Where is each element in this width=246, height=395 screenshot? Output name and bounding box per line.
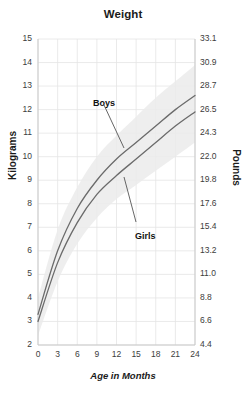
- x-axis-tick-label: 6: [68, 349, 86, 359]
- y-axis-left-tick-label: 6: [10, 245, 32, 255]
- y-axis-left-tick-label: 3: [10, 315, 32, 325]
- series-label-boys: Boys: [93, 98, 115, 108]
- x-axis-tick-label: 15: [127, 349, 145, 359]
- y-axis-left-tick-label: 5: [10, 268, 32, 278]
- y-axis-right-tick-label: 24.3: [200, 127, 226, 137]
- y-axis-right-tick-label: 26.5: [200, 104, 226, 114]
- y-axis-left-tick-label: 14: [10, 57, 32, 67]
- y-axis-left-tick-label: 4: [10, 292, 32, 302]
- y-axis-left-tick-label: 13: [10, 80, 32, 90]
- y-axis-right-tick-label: 33.1: [200, 33, 226, 43]
- x-axis-tick-label: 9: [88, 349, 106, 359]
- y-axis-right-tick-label: 11.0: [200, 268, 226, 278]
- y-axis-right-tick-label: 6.6: [200, 315, 226, 325]
- y-axis-left-tick-label: 7: [10, 221, 32, 231]
- series-label-girls: Girls: [135, 231, 156, 241]
- y-axis-right-tick-label: 30.9: [200, 57, 226, 67]
- y-axis-left-tick-label: 8: [10, 198, 32, 208]
- weight-growth-chart: Weight Kilograms Pounds Age in Months 15…: [0, 0, 246, 395]
- y-axis-left-tick-label: 12: [10, 104, 32, 114]
- y-axis-right-tick-label: 15.4: [200, 221, 226, 231]
- y-axis-right-tick-label: 8.8: [200, 292, 226, 302]
- y-axis-left-tick-label: 10: [10, 151, 32, 161]
- y-axis-right-tick-label: 17.6: [200, 198, 226, 208]
- y-axis-right-tick-label: 13.2: [200, 245, 226, 255]
- y-axis-right-tick-label: 28.7: [200, 80, 226, 90]
- x-axis-tick-label: 18: [147, 349, 165, 359]
- x-axis-tick-label: 3: [49, 349, 67, 359]
- x-axis-tick-label: 12: [108, 349, 126, 359]
- y-axis-left-tick-label: 9: [10, 174, 32, 184]
- x-axis-tick-label: 0: [29, 349, 47, 359]
- y-axis-left-tick-label: 15: [10, 33, 32, 43]
- y-axis-left-tick-label: 2: [10, 339, 32, 349]
- y-axis-right-tick-label: 19.8: [200, 174, 226, 184]
- y-axis-right-tick-label: 4.4: [200, 339, 226, 349]
- y-axis-right-tick-label: 22.0: [200, 151, 226, 161]
- x-axis-tick-label: 24: [186, 349, 204, 359]
- x-axis-tick-label: 21: [166, 349, 184, 359]
- y-axis-left-tick-label: 11: [10, 127, 32, 137]
